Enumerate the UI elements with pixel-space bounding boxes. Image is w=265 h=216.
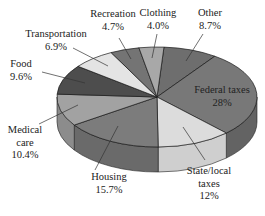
- slice-label-recreation: Recreation4.7%: [90, 8, 136, 32]
- slice-label-other: Other8.7%: [198, 7, 222, 31]
- pie-chart: Other8.7%Federal taxes28%State/localtaxe…: [0, 0, 265, 216]
- slice-label-state-local-taxes: State/localtaxes12%: [187, 165, 231, 201]
- slice-label-transportation: Transportation6.9%: [25, 28, 87, 52]
- slice-label-housing: Housing15.7%: [91, 171, 127, 195]
- slice-label-food: Food9.6%: [10, 58, 32, 82]
- slice-label-clothing: Clothing4.0%: [140, 7, 178, 31]
- slice-label-medical-care: Medicalcare10.4%: [8, 124, 42, 160]
